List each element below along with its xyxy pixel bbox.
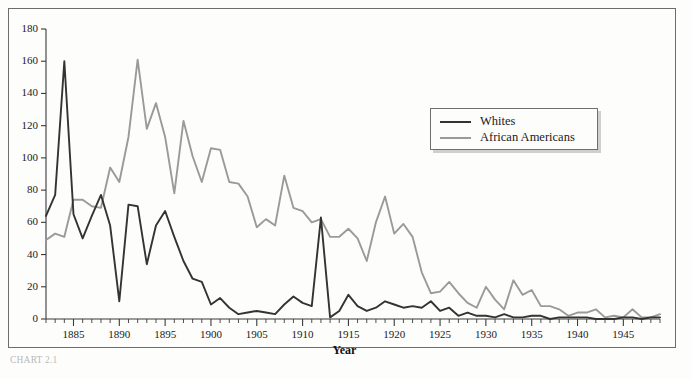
figure-frame: 0204060801001201401601801885189018951900… xyxy=(8,8,676,348)
x-axis-tick-label: 1925 xyxy=(420,328,460,340)
legend-swatch-whites xyxy=(440,121,471,123)
y-axis-tick-label: 20 xyxy=(14,280,38,292)
legend-label-african-americans: African Americans xyxy=(480,131,575,144)
series-line-african-americans xyxy=(46,60,660,318)
axes-layer xyxy=(41,29,660,326)
y-axis-tick-label: 160 xyxy=(14,54,38,66)
x-axis-tick-label: 1900 xyxy=(191,328,231,340)
x-axis-tick-label: 1930 xyxy=(466,328,506,340)
series-line-whites xyxy=(46,61,660,319)
x-axis-tick-label: 1895 xyxy=(145,328,185,340)
x-axis-tick-label: 1890 xyxy=(99,328,139,340)
x-axis-tick-label: 1905 xyxy=(237,328,277,340)
chart-legend: Whites African Americans xyxy=(430,108,598,150)
legend-label-whites: Whites xyxy=(480,115,515,128)
legend-swatch-african-americans xyxy=(440,137,471,139)
y-axis-tick-label: 60 xyxy=(14,215,38,227)
y-axis-tick-label: 120 xyxy=(14,119,38,131)
figure-caption: CHART 2.1 xyxy=(10,355,510,377)
chart-page: 0204060801001201401601801885189018951900… xyxy=(0,0,692,379)
x-axis-tick-label: 1915 xyxy=(328,328,368,340)
y-axis-tick-label: 140 xyxy=(14,86,38,98)
line-chart-plot xyxy=(9,9,677,349)
x-axis-tick-label: 1945 xyxy=(603,328,643,340)
x-axis-tick-label: 1935 xyxy=(512,328,552,340)
y-axis-tick-label: 80 xyxy=(14,183,38,195)
series-layer xyxy=(46,60,660,319)
x-axis-tick-label: 1940 xyxy=(558,328,598,340)
x-axis-tick-label: 1885 xyxy=(53,328,93,340)
legend-entry-african-americans: African Americans xyxy=(440,130,575,145)
x-axis-tick-label: 1910 xyxy=(283,328,323,340)
legend-entry-whites: Whites xyxy=(440,114,515,129)
y-axis-tick-label: 0 xyxy=(14,312,38,324)
x-axis-tick-label: 1920 xyxy=(374,328,414,340)
y-axis-tick-label: 100 xyxy=(14,151,38,163)
y-axis-tick-label: 40 xyxy=(14,248,38,260)
y-axis-tick-label: 180 xyxy=(14,22,38,34)
